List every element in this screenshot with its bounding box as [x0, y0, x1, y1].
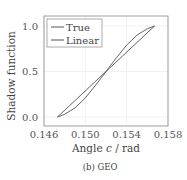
- y-axis-ticks: 0.00.51.0: [22, 21, 38, 123]
- x-axis-label-prefix: Angle: [71, 142, 106, 154]
- x-axis-label-suffix: / rad: [112, 142, 140, 154]
- y-tick-label: 0.5: [22, 66, 38, 77]
- x-tick-label: 0.158: [154, 129, 183, 140]
- legend: True Linear: [47, 19, 102, 47]
- y-tick-label: 0.0: [22, 112, 38, 123]
- y-tick-label: 1.0: [22, 21, 38, 32]
- x-tick-label: 0.150: [71, 129, 100, 140]
- legend-label-true: True: [66, 22, 90, 33]
- y-axis-label: Shadow function: [5, 31, 17, 121]
- chart: 0.1460.1500.1540.158 0.00.51.0 True Line…: [0, 0, 187, 180]
- legend-label-linear: Linear: [66, 35, 99, 46]
- x-axis-label: Angle c / rad: [71, 142, 140, 154]
- figure-caption: (b) GEO: [83, 162, 118, 172]
- x-axis-ticks: 0.1460.1500.1540.158: [30, 129, 183, 140]
- x-tick-label: 0.154: [112, 129, 141, 140]
- x-tick-label: 0.146: [30, 129, 59, 140]
